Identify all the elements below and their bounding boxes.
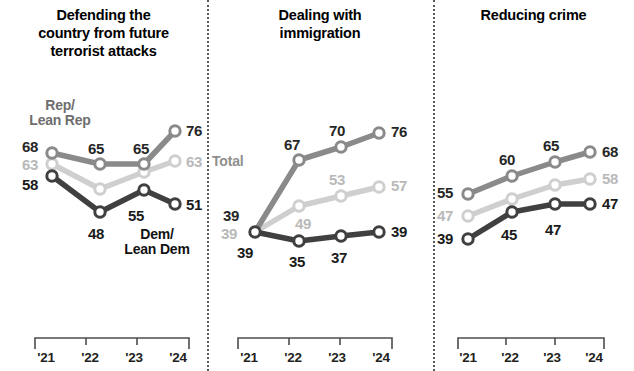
marker-rep bbox=[336, 142, 346, 152]
panel-divider-1 bbox=[207, 0, 209, 371]
value-label-dem-23: 55 bbox=[128, 208, 144, 223]
value-label-rep-24: 76 bbox=[186, 123, 202, 138]
marker-total bbox=[294, 201, 304, 211]
value-label-dem-21: 39 bbox=[437, 231, 453, 246]
marker-dem bbox=[139, 185, 149, 195]
value-label-dem-22: 35 bbox=[289, 254, 305, 269]
x-tick-22: '22 bbox=[489, 350, 531, 365]
panel-title-reducing-crime: Reducing crime bbox=[433, 6, 634, 24]
marker-dem bbox=[374, 227, 384, 237]
marker-dem bbox=[294, 236, 304, 246]
marker-rep bbox=[585, 147, 595, 157]
series-label-dem-line-2: Lean Dem bbox=[113, 242, 201, 257]
marker-rep bbox=[550, 157, 560, 167]
value-label-total-21: 63 bbox=[22, 157, 38, 172]
marker-dem bbox=[550, 199, 560, 209]
value-label-total-24: 58 bbox=[602, 171, 618, 186]
value-label-total-21: 39 bbox=[221, 226, 237, 241]
value-label-dem-23: 37 bbox=[331, 250, 347, 265]
line-rep bbox=[255, 133, 379, 232]
value-label-rep-24: 68 bbox=[602, 144, 618, 159]
value-label-rep-22: 65 bbox=[88, 141, 104, 156]
x-tick-labels-immigration: '21 '22 '23 '24 bbox=[227, 350, 403, 365]
panel-title-line-1: Reducing crime bbox=[433, 6, 634, 24]
x-tick-22: '22 bbox=[271, 350, 315, 365]
panel-title-line-1: Dealing with bbox=[207, 6, 433, 24]
marker-total bbox=[374, 182, 384, 192]
series-label-dem: Dem/ Lean Dem bbox=[113, 227, 201, 257]
value-label-dem-21: 58 bbox=[22, 177, 38, 192]
panel-title-terrorist-attacks: Defending the country from future terror… bbox=[0, 6, 207, 60]
marker-total bbox=[336, 191, 346, 201]
value-label-rep-21: 68 bbox=[22, 139, 38, 154]
series-label-rep-line-1: Rep/ bbox=[14, 98, 106, 113]
value-label-dem-23: 47 bbox=[545, 222, 561, 237]
panel-divider-2 bbox=[433, 0, 435, 371]
x-tick-labels-reducing-crime: '21 '22 '23 '24 bbox=[447, 350, 615, 365]
value-label-total-22: 49 bbox=[295, 216, 311, 231]
x-tick-23: '23 bbox=[531, 350, 573, 365]
value-label-rep-23: 65 bbox=[543, 138, 559, 153]
marker-rep bbox=[95, 159, 105, 169]
series-label-dem-line-1: Dem/ bbox=[113, 227, 201, 242]
marker-origin-2021 bbox=[250, 227, 260, 237]
x-tick-24: '24 bbox=[359, 350, 403, 365]
marker-total bbox=[550, 180, 560, 190]
x-tick-23: '23 bbox=[315, 350, 359, 365]
value-label-rep-22: 67 bbox=[284, 137, 300, 152]
x-tick-labels-terrorist-attacks: '21 '22 '23 '24 bbox=[24, 350, 200, 365]
value-label-rep-21: 39 bbox=[223, 208, 239, 223]
value-label-rep-22: 60 bbox=[499, 152, 515, 167]
panel-title-line-1: Defending the bbox=[0, 6, 207, 24]
x-tick-23: '23 bbox=[112, 350, 156, 365]
value-label-rep-23: 70 bbox=[329, 123, 345, 138]
marker-rep bbox=[47, 148, 57, 158]
value-label-total-24: 57 bbox=[391, 178, 407, 193]
value-label-rep-21: 55 bbox=[437, 185, 453, 200]
line-dem bbox=[52, 176, 175, 212]
value-label-dem-24: 39 bbox=[391, 224, 407, 239]
value-label-rep-24: 76 bbox=[391, 124, 407, 139]
value-label-total-23: 53 bbox=[329, 172, 345, 187]
x-tick-22: '22 bbox=[68, 350, 112, 365]
line-dem bbox=[468, 204, 590, 239]
panel-title-line-2: country from future bbox=[0, 24, 207, 42]
marker-dem bbox=[170, 199, 180, 209]
value-label-dem-22: 48 bbox=[88, 226, 104, 241]
panel-title-line-3: terrorist attacks bbox=[0, 42, 207, 60]
marker-total bbox=[95, 184, 105, 194]
series-label-rep: Rep/ Lean Rep bbox=[14, 98, 106, 128]
line-total bbox=[52, 161, 175, 189]
value-label-total-24: 63 bbox=[186, 154, 202, 169]
marker-dem bbox=[585, 199, 595, 209]
line-total bbox=[255, 187, 379, 232]
marker-rep bbox=[139, 159, 149, 169]
value-label-total-21: 47 bbox=[437, 208, 453, 223]
value-label-dem-21: 39 bbox=[237, 245, 253, 260]
x-tick-24: '24 bbox=[573, 350, 615, 365]
marker-rep bbox=[507, 171, 517, 181]
x-tick-21: '21 bbox=[447, 350, 489, 365]
line-rep bbox=[468, 152, 590, 194]
marker-dem bbox=[507, 207, 517, 217]
value-label-dem-24: 51 bbox=[186, 197, 202, 212]
panel-immigration: Dealing with immigration 67 bbox=[207, 0, 433, 371]
value-label-rep-23: 65 bbox=[133, 141, 149, 156]
marker-total bbox=[507, 194, 517, 204]
panel-title-line-2: immigration bbox=[207, 24, 433, 42]
line-dem bbox=[255, 232, 379, 241]
marker-dem bbox=[47, 171, 57, 181]
marker-dem bbox=[95, 207, 105, 217]
marker-total bbox=[170, 156, 180, 166]
marker-total bbox=[585, 174, 595, 184]
x-tick-21: '21 bbox=[24, 350, 68, 365]
marker-total bbox=[139, 167, 149, 177]
panel-reducing-crime: Reducing crime 55 60 bbox=[433, 0, 634, 371]
chart-root: Defending the country from future terror… bbox=[0, 0, 634, 371]
x-tick-24: '24 bbox=[156, 350, 200, 365]
value-label-dem-22: 45 bbox=[501, 227, 517, 242]
marker-total bbox=[463, 211, 473, 221]
line-total bbox=[468, 179, 590, 216]
value-label-dem-24: 47 bbox=[602, 196, 618, 211]
marker-dem bbox=[336, 231, 346, 241]
